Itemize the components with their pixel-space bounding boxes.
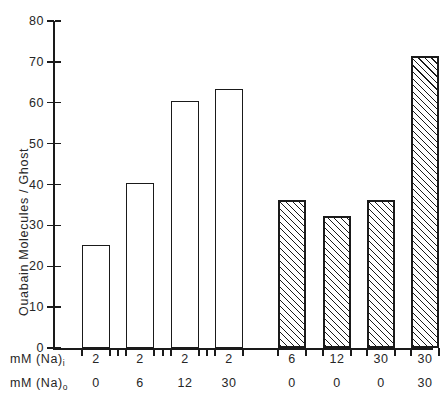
bar-1 <box>82 245 110 348</box>
bar-4 <box>215 89 243 348</box>
y-tick-30 <box>47 225 54 226</box>
x-label-r2-c1: 0 <box>76 376 116 390</box>
y-tick-80 <box>47 20 54 21</box>
x-label-r1-c1: 2 <box>76 352 116 366</box>
x-label-r2-c6: 0 <box>317 376 357 390</box>
bar-5 <box>278 200 306 348</box>
y-tick-inner-40 <box>55 184 62 185</box>
bar-8 <box>411 56 439 348</box>
bar-7 <box>367 200 395 348</box>
x-label-r1-c3: 2 <box>165 352 205 366</box>
y-tick-20 <box>47 266 54 267</box>
y-tick-inner-70 <box>55 61 62 62</box>
y-tick-70 <box>47 61 54 62</box>
y-tick-inner-20 <box>55 266 62 267</box>
x-label-r1-c5: 6 <box>272 352 312 366</box>
y-tick-label-30: 30 <box>29 218 44 232</box>
y-tick-10 <box>47 306 54 307</box>
x-label-row-subscript-1: i <box>63 358 65 368</box>
x-label-r1-c2: 2 <box>120 352 160 366</box>
y-tick-50 <box>47 143 54 144</box>
y-tick-label-80: 80 <box>29 14 44 28</box>
x-label-r1-c7: 30 <box>361 352 401 366</box>
x-label-row-subscript-2: o <box>63 382 68 392</box>
x-label-row-1: mM (Na)i22226123030 <box>0 352 446 374</box>
x-label-row-title-2: mM (Na)o <box>10 376 68 390</box>
x-label-r1-c6: 12 <box>317 352 357 366</box>
y-tick-inner-50 <box>55 143 62 144</box>
y-tick-label-70: 70 <box>29 55 44 69</box>
bar-chart-figure: Ouabain Molecules / Ghost 01020304050607… <box>0 0 446 407</box>
x-label-row-title-1: mM (Na)i <box>10 352 65 366</box>
x-label-r1-c4: 2 <box>209 352 249 366</box>
y-tick-label-40: 40 <box>29 178 44 192</box>
y-tick-label-10: 10 <box>29 300 44 314</box>
y-tick-label-20: 20 <box>29 259 44 273</box>
y-tick-inner-10 <box>55 306 62 307</box>
x-label-r2-c2: 6 <box>120 376 160 390</box>
x-label-row-2: mM (Na)o06123000030 <box>0 376 446 398</box>
y-tick-label-50: 50 <box>29 137 44 151</box>
y-tick-inner-30 <box>55 225 62 226</box>
y-tick-60 <box>47 102 54 103</box>
x-label-r2-c4: 30 <box>209 376 249 390</box>
y-axis-label-container: Ouabain Molecules / Ghost <box>0 0 26 352</box>
x-axis-label-rows: mM (Na)i22226123030mM (Na)o06123000030 <box>0 352 446 407</box>
bar-6 <box>323 216 351 348</box>
y-tick-inner-0 <box>55 347 62 348</box>
y-tick-0 <box>47 347 54 348</box>
bar-3 <box>171 101 199 348</box>
y-tick-label-60: 60 <box>29 96 44 110</box>
y-tick-inner-60 <box>55 102 62 103</box>
y-tick-40 <box>47 184 54 185</box>
y-tick-inner-80 <box>55 20 62 21</box>
bar-2 <box>126 183 154 348</box>
plot-area: 01020304050607080 <box>53 21 433 348</box>
x-label-r2-c8: 30 <box>405 376 445 390</box>
x-label-r1-c8: 30 <box>405 352 445 366</box>
x-label-r2-c5: 0 <box>272 376 312 390</box>
x-label-r2-c3: 12 <box>165 376 205 390</box>
x-label-r2-c7: 0 <box>361 376 401 390</box>
